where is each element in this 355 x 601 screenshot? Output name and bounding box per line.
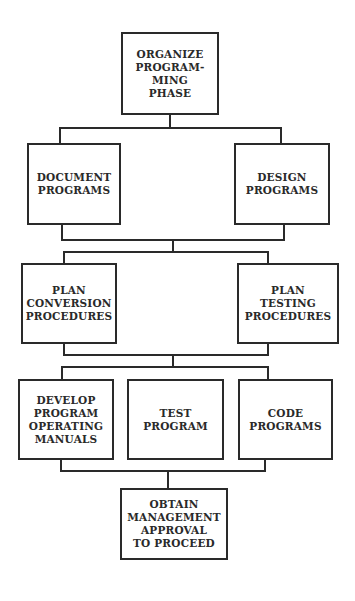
connector-row1-right-drop: [280, 127, 282, 144]
connector-row3-top-bracket: [61, 366, 269, 368]
node-obtain-management-approval: OBTAIN MANAGEMENT APPROVAL TO PROCEED: [120, 488, 228, 560]
node-design-programs: DESIGN PROGRAMS: [234, 143, 330, 225]
node-label: DOCUMENT PROGRAMS: [37, 171, 111, 197]
connector-row3-to-final: [167, 470, 169, 489]
node-label: DEVELOP PROGRAM OPERATING MANUALS: [29, 394, 103, 446]
node-label: TEST PROGRAM: [143, 407, 208, 433]
connector-row3-bottom-bracket: [60, 470, 266, 472]
connector-organize-down: [169, 114, 171, 128]
connector-row2-bottom-bracket: [63, 354, 269, 356]
node-test-program: TEST PROGRAM: [127, 379, 224, 460]
node-label: PLAN TESTING PROCEDURES: [245, 284, 332, 323]
connector-row1-top-bracket: [59, 127, 282, 129]
node-label: OBTAIN MANAGEMENT APPROVAL TO PROCEED: [127, 498, 221, 550]
connector-row2-top-bracket: [63, 251, 269, 253]
node-document-programs: DOCUMENT PROGRAMS: [27, 143, 121, 225]
node-label: CODE PROGRAMS: [249, 407, 321, 433]
node-organize-programming-phase: ORGANIZE PROGRAM- MING PHASE: [121, 32, 219, 115]
node-plan-conversion-procedures: PLAN CONVERSION PROCEDURES: [21, 263, 117, 344]
node-label: DESIGN PROGRAMS: [246, 171, 318, 197]
node-label: ORGANIZE PROGRAM- MING PHASE: [135, 48, 204, 100]
node-plan-testing-procedures: PLAN TESTING PROCEDURES: [237, 263, 339, 344]
connector-row3-right-drop: [267, 366, 269, 380]
node-develop-program-operating-manuals: DEVELOP PROGRAM OPERATING MANUALS: [18, 379, 114, 460]
connector-row1-left-drop: [59, 127, 61, 144]
connector-row3-left-drop: [61, 366, 63, 380]
node-label: PLAN CONVERSION PROCEDURES: [26, 284, 113, 323]
node-code-programs: CODE PROGRAMS: [238, 379, 333, 460]
